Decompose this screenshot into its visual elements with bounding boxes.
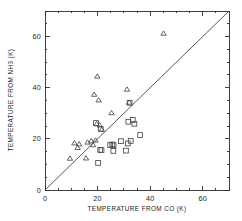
data-point-triangle [95,74,100,78]
x-tick-label: 0 [43,194,47,203]
scatter-plot-figure: 0204060 0204060 TEMPERATURE FROM CO (K) … [0,0,242,221]
data-point-triangle [67,156,72,160]
x-axis-title: TEMPERATURE FROM CO (K) [87,205,186,213]
data-point-square [96,161,101,166]
x-tick-label: 60 [199,194,207,203]
data-point-triangle [109,110,114,114]
x-tick-label: 20 [93,194,101,203]
series-squares [94,100,143,165]
data-point-triangle [124,87,129,91]
x-axis-tick-labels: 0204060 [43,194,207,203]
data-point-square [138,133,143,138]
y-tick-label: 0 [37,186,41,195]
data-point-triangle [99,127,104,131]
y-axis-tick-labels: 0204060 [33,32,41,194]
reference-line-segment [45,11,229,190]
one-to-one-reference-line [45,11,229,190]
data-point-triangle [72,141,77,145]
x-tick-label: 40 [146,194,154,203]
data-point-square [98,147,103,152]
data-point-triangle [83,156,88,160]
data-point-triangle [77,142,82,146]
data-point-triangle [91,92,96,96]
y-tick-label: 20 [33,134,41,143]
y-axis-title: TEMPERATURE FROM NH3 (K) [7,49,15,152]
y-tick-label: 60 [33,32,41,41]
chart-canvas: 0204060 0204060 TEMPERATURE FROM CO (K) … [0,0,242,221]
data-point-square [111,148,116,153]
data-point-triangle [161,31,166,35]
data-point-square [99,148,104,153]
series-triangles [67,31,166,160]
data-point-square [119,139,124,144]
y-tick-label: 40 [33,83,41,92]
data-point-triangle [96,98,101,102]
data-point-square [124,148,129,153]
